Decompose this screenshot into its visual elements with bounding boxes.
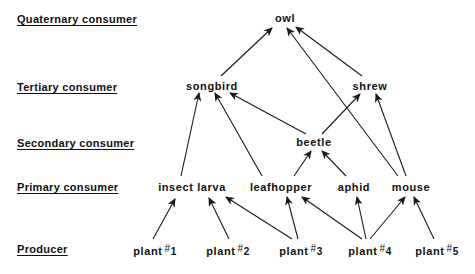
node-plant-2: plant#2 bbox=[206, 243, 250, 258]
arrow-plant3-to-insect_larva bbox=[226, 197, 292, 239]
node-label: plant bbox=[279, 245, 308, 257]
node-label: aphid bbox=[338, 181, 370, 193]
arrow-shrew-to-owl bbox=[296, 27, 362, 76]
node-label: mouse bbox=[392, 181, 430, 193]
node-beetle: beetle bbox=[296, 136, 331, 148]
node-label: leafhopper bbox=[250, 181, 312, 193]
plant-number: 3 bbox=[317, 246, 323, 257]
node-label: shrew bbox=[353, 80, 388, 92]
plant-number: 4 bbox=[386, 246, 392, 257]
node-label: songbird bbox=[186, 80, 238, 92]
level-label-tertiary: Tertiary consumer bbox=[17, 81, 117, 93]
arrow-leafhopper-to-beetle bbox=[294, 151, 311, 176]
node-plant-1: plant#1 bbox=[133, 243, 177, 258]
plant-number: 5 bbox=[453, 246, 459, 257]
plant-number: 2 bbox=[244, 246, 250, 257]
node-plant-5: plant#5 bbox=[415, 243, 459, 258]
arrow-mouse-to-shrew bbox=[376, 94, 406, 176]
node-leafhopper: leafhopper bbox=[250, 181, 312, 193]
node-insect-larva: insect larva bbox=[158, 181, 226, 193]
node-label: plant bbox=[415, 245, 444, 257]
plant-number: 1 bbox=[171, 246, 177, 257]
node-mouse: mouse bbox=[392, 181, 430, 193]
node-songbird: songbird bbox=[186, 80, 238, 92]
node-label: owl bbox=[275, 12, 295, 24]
arrow-leafhopper-to-songbird bbox=[215, 93, 262, 176]
level-label-quaternary: Quaternary consumer bbox=[17, 13, 137, 25]
arrow-songbird-to-owl bbox=[221, 28, 272, 76]
node-owl: owl bbox=[275, 12, 295, 24]
arrow-plant5-to-mouse bbox=[414, 197, 434, 239]
arrow-plant1-to-insect_larva bbox=[153, 199, 175, 239]
level-label-producer: Producer bbox=[17, 243, 68, 255]
arrow-plant3-to-leafhopper bbox=[287, 197, 298, 239]
node-label: beetle bbox=[296, 136, 331, 148]
arrow-plant4-to-leafhopper bbox=[302, 197, 362, 239]
edge-layer bbox=[153, 27, 434, 239]
arrow-beetle-to-songbird bbox=[230, 93, 306, 134]
arrow-plant4-to-mouse bbox=[370, 197, 405, 239]
arrow-insect_larva-to-songbird bbox=[181, 93, 199, 176]
node-plant-3: plant#3 bbox=[279, 243, 323, 258]
node-label: plant bbox=[206, 245, 235, 257]
node-label: plant bbox=[133, 245, 162, 257]
level-label-secondary: Secondary consumer bbox=[17, 137, 134, 149]
node-label: insect larva bbox=[158, 181, 226, 193]
arrow-aphid-to-beetle bbox=[322, 151, 346, 176]
arrow-plant4-to-aphid bbox=[357, 197, 366, 239]
node-shrew: shrew bbox=[353, 80, 388, 92]
node-plant-4: plant#4 bbox=[348, 243, 392, 258]
node-label: plant bbox=[348, 245, 377, 257]
arrow-plant2-to-insect_larva bbox=[209, 198, 229, 239]
arrow-mouse-to-owl bbox=[287, 28, 398, 176]
node-aphid: aphid bbox=[338, 181, 370, 193]
level-label-primary: Primary consumer bbox=[17, 181, 118, 193]
